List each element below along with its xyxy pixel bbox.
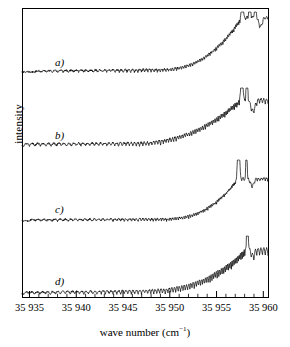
x-axis-tick-labels: 35 93535 94035 94535 95035 95535 960 [0, 302, 290, 318]
x-axis-tick-label: 35 935 [15, 302, 44, 313]
y-axis-label: intensity [12, 84, 24, 164]
x-axis-label-exponent: −1 [179, 325, 186, 333]
x-axis-label-text: wave number (cm [100, 326, 179, 338]
x-axis-tick-label: 35 940 [62, 302, 91, 313]
spectrum-canvas [0, 0, 290, 347]
plot-frame [23, 9, 269, 298]
x-axis-tick-label: 35 960 [249, 302, 278, 313]
spectrum-traces [22, 12, 268, 295]
trace-label-b: b) [55, 129, 64, 141]
trace-label-c: c) [55, 203, 64, 215]
x-axis-label: wave number (cm−1) [0, 325, 290, 338]
trace-label-a: a) [55, 56, 64, 68]
spectrum-figure: intensity 35 93535 94035 94535 95035 955… [0, 0, 290, 347]
x-axis-tick-label: 35 955 [202, 302, 231, 313]
trace-label-d: d) [55, 275, 64, 287]
x-axis-tick-label: 35 950 [155, 302, 184, 313]
plot-border [23, 9, 269, 298]
x-axis-label-tail: ) [187, 326, 191, 338]
x-axis-tick-label: 35 945 [109, 302, 138, 313]
